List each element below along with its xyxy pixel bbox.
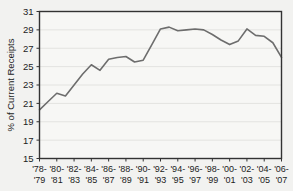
x-tick-label-top-5: '88- <box>119 164 134 174</box>
y-tick-label-29: 29 <box>23 24 34 35</box>
y-tick-label-19: 19 <box>23 116 34 127</box>
x-tick-label-top-8: '94- <box>170 164 185 174</box>
x-tick-label-bottom-5: '89 <box>120 175 132 185</box>
x-tick-label-bottom-11: '01 <box>224 175 236 185</box>
x-tick-label-top-10: '98- <box>205 164 220 174</box>
x-tick-label-top-11: '00- <box>222 164 237 174</box>
x-tick-label-bottom-2: '83 <box>68 175 80 185</box>
x-tick-label-top-2: '82- <box>67 164 82 174</box>
x-tick-label-top-0: '78- <box>32 164 47 174</box>
chart-figure: 151719212325272931 '78-'79'80-'81'82-'83… <box>0 0 293 191</box>
x-tick-label-bottom-0: '79 <box>34 175 46 185</box>
y-axis-title: % of Current Receipts <box>5 38 16 131</box>
y-axis-title-text: % of Current Receipts <box>5 38 16 131</box>
y-axis-ticks: 151719212325272931 <box>23 6 40 164</box>
x-tick-label-top-4: '86- <box>101 164 116 174</box>
x-tick-label-bottom-9: '97 <box>189 175 201 185</box>
x-tick-label-top-14: '06- <box>274 164 289 174</box>
x-tick-label-bottom-8: '95 <box>172 175 184 185</box>
x-tick-label-bottom-6: '91 <box>137 175 149 185</box>
x-tick-label-bottom-4: '87 <box>103 175 115 185</box>
y-tick-label-23: 23 <box>23 79 34 90</box>
y-tick-label-17: 17 <box>23 135 34 146</box>
x-tick-label-top-1: '80- <box>49 164 64 174</box>
x-tick-label-top-7: '92- <box>153 164 168 174</box>
line-chart: 151719212325272931 '78-'79'80-'81'82-'83… <box>0 0 293 191</box>
x-tick-label-bottom-10: '99 <box>206 175 218 185</box>
y-tick-label-25: 25 <box>23 61 34 72</box>
x-tick-label-top-12: '02- <box>240 164 255 174</box>
x-tick-label-top-6: '90- <box>136 164 151 174</box>
y-tick-label-15: 15 <box>23 153 34 164</box>
y-tick-label-27: 27 <box>23 43 34 54</box>
x-tick-label-bottom-1: '81 <box>51 175 63 185</box>
x-tick-label-bottom-7: '93 <box>155 175 167 185</box>
x-tick-label-bottom-13: '05 <box>258 175 270 185</box>
x-tick-label-top-3: '84- <box>84 164 99 174</box>
x-tick-label-bottom-3: '85 <box>85 175 97 185</box>
x-tick-label-top-9: '96- <box>188 164 203 174</box>
x-tick-label-bottom-14: '07 <box>276 175 288 185</box>
y-tick-label-31: 31 <box>23 6 34 17</box>
y-tick-label-21: 21 <box>23 98 34 109</box>
x-tick-label-bottom-12: '03 <box>241 175 253 185</box>
x-tick-label-top-13: '04- <box>257 164 272 174</box>
